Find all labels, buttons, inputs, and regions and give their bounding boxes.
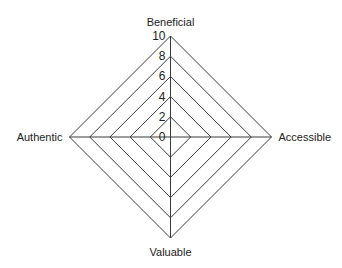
tick-label: 0 — [159, 130, 166, 144]
axis-label-accessible: Accessible — [279, 131, 332, 143]
tick-label: 4 — [159, 90, 166, 104]
tick-label: 8 — [159, 49, 166, 63]
axis-label-beneficial: Beneficial — [147, 16, 195, 28]
tick-label: 2 — [159, 110, 166, 124]
axis-label-valuable: Valuable — [150, 246, 192, 258]
axis-label-authentic: Authentic — [17, 131, 63, 143]
tick-label: 6 — [159, 69, 166, 83]
axis-lines — [70, 36, 272, 238]
radial-tick-labels: 0246810 — [152, 29, 166, 144]
tick-label: 10 — [152, 29, 166, 43]
radar-chart: 0246810 BeneficialAccessibleValuableAuth… — [0, 0, 342, 268]
